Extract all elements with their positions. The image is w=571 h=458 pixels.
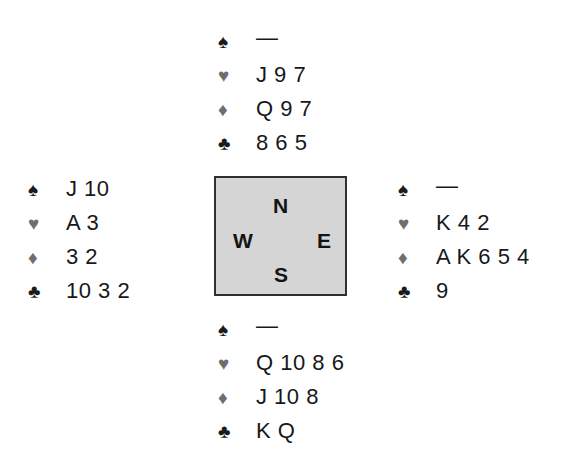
spade-icon: ♠ bbox=[28, 180, 50, 199]
club-icon: ♣ bbox=[28, 282, 50, 301]
diamond-icon: ♦ bbox=[28, 248, 50, 267]
north-heart-row: ♥ J 9 7 bbox=[218, 58, 312, 92]
club-icon: ♣ bbox=[398, 282, 420, 301]
south-heart-cards: Q 10 8 6 bbox=[240, 352, 344, 374]
east-club-cards: 9 bbox=[420, 280, 449, 302]
spade-icon: ♠ bbox=[218, 32, 240, 51]
east-club-row: ♣ 9 bbox=[398, 274, 530, 308]
bridge-hand-diagram: ♠ — ♥ J 9 7 ♦ Q 9 7 ♣ 8 6 5 ♠ J 10 ♥ A 3… bbox=[0, 0, 571, 458]
west-heart-row: ♥ A 3 bbox=[28, 206, 130, 240]
heart-icon: ♥ bbox=[218, 66, 240, 85]
east-spade-cards: — bbox=[420, 178, 458, 200]
hand-west: ♠ J 10 ♥ A 3 ♦ 3 2 ♣ 10 3 2 bbox=[28, 172, 130, 308]
hand-south: ♠ — ♥ Q 10 8 6 ♦ J 10 8 ♣ K Q bbox=[218, 312, 344, 448]
compass-label-west: W bbox=[233, 230, 253, 251]
east-diamond-cards: A K 6 5 4 bbox=[420, 246, 530, 268]
compass-label-south: S bbox=[274, 264, 288, 285]
north-spade-cards: — bbox=[240, 30, 278, 52]
south-club-cards: K Q bbox=[240, 420, 295, 442]
club-icon: ♣ bbox=[218, 422, 240, 441]
south-diamond-cards: J 10 8 bbox=[240, 386, 319, 408]
east-diamond-row: ♦ A K 6 5 4 bbox=[398, 240, 530, 274]
north-club-row: ♣ 8 6 5 bbox=[218, 126, 312, 160]
south-spade-cards: — bbox=[240, 318, 278, 340]
club-icon: ♣ bbox=[218, 134, 240, 153]
hand-north: ♠ — ♥ J 9 7 ♦ Q 9 7 ♣ 8 6 5 bbox=[218, 24, 312, 160]
north-spade-row: ♠ — bbox=[218, 24, 312, 58]
north-club-cards: 8 6 5 bbox=[240, 132, 307, 154]
spade-icon: ♠ bbox=[398, 180, 420, 199]
hand-east: ♠ — ♥ K 4 2 ♦ A K 6 5 4 ♣ 9 bbox=[398, 172, 530, 308]
diamond-icon: ♦ bbox=[218, 388, 240, 407]
south-heart-row: ♥ Q 10 8 6 bbox=[218, 346, 344, 380]
west-spade-row: ♠ J 10 bbox=[28, 172, 130, 206]
east-heart-row: ♥ K 4 2 bbox=[398, 206, 530, 240]
south-diamond-row: ♦ J 10 8 bbox=[218, 380, 344, 414]
diamond-icon: ♦ bbox=[398, 248, 420, 267]
east-heart-cards: K 4 2 bbox=[420, 212, 490, 234]
west-heart-cards: A 3 bbox=[50, 212, 99, 234]
west-club-cards: 10 3 2 bbox=[50, 280, 130, 302]
west-spade-cards: J 10 bbox=[50, 178, 110, 200]
compass-label-north: N bbox=[273, 195, 288, 216]
heart-icon: ♥ bbox=[398, 214, 420, 233]
north-diamond-row: ♦ Q 9 7 bbox=[218, 92, 312, 126]
heart-icon: ♥ bbox=[218, 354, 240, 373]
compass-box: N W E S bbox=[214, 176, 347, 296]
compass-label-east: E bbox=[317, 230, 331, 251]
heart-icon: ♥ bbox=[28, 214, 50, 233]
spade-icon: ♠ bbox=[218, 320, 240, 339]
west-diamond-cards: 3 2 bbox=[50, 246, 98, 268]
west-diamond-row: ♦ 3 2 bbox=[28, 240, 130, 274]
west-club-row: ♣ 10 3 2 bbox=[28, 274, 130, 308]
south-spade-row: ♠ — bbox=[218, 312, 344, 346]
south-club-row: ♣ K Q bbox=[218, 414, 344, 448]
north-diamond-cards: Q 9 7 bbox=[240, 98, 312, 120]
diamond-icon: ♦ bbox=[218, 100, 240, 119]
north-heart-cards: J 9 7 bbox=[240, 64, 306, 86]
east-spade-row: ♠ — bbox=[398, 172, 530, 206]
